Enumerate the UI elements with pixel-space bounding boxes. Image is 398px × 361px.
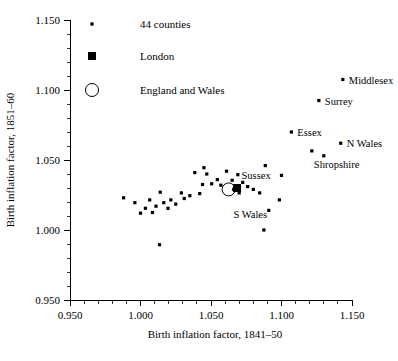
- data-point: [180, 191, 183, 194]
- point-label-sussex: Sussex: [242, 170, 272, 181]
- data-point-n-wales: [339, 142, 342, 145]
- data-point: [193, 171, 196, 174]
- legend-marker-filled-square: [88, 52, 96, 60]
- data-point: [258, 191, 261, 194]
- data-point-s-wales: [278, 198, 281, 201]
- point-label-s-wales: S Wales: [233, 209, 267, 220]
- scatter-plot-figure: 0.9501.0001.0501.1001.1500.9501.0001.050…: [0, 0, 398, 361]
- data-point-surrey: [317, 99, 320, 102]
- x-tick-label: 1.000: [128, 309, 153, 321]
- data-point: [162, 201, 165, 204]
- point-labels-group: MiddlesexSurreyEssexN WalesShropshireSus…: [233, 75, 394, 220]
- y-tick-label: 1.000: [35, 224, 60, 236]
- point-label-middlesex: Middlesex: [349, 75, 394, 86]
- data-point: [122, 196, 125, 199]
- data-point: [144, 207, 147, 210]
- y-tick-label: 1.100: [35, 84, 60, 96]
- data-point-sussex: [280, 174, 283, 177]
- data-point: [322, 154, 325, 157]
- point-label-n-wales: N Wales: [347, 138, 382, 149]
- data-point: [183, 197, 186, 200]
- data-point-essex: [290, 130, 293, 133]
- y-tick-label: 0.950: [35, 294, 60, 306]
- data-point: [267, 209, 270, 212]
- data-point: [188, 194, 191, 197]
- data-point: [252, 188, 255, 191]
- data-point: [158, 243, 161, 246]
- x-tick-label: 1.100: [269, 309, 294, 321]
- chart-svg: 0.9501.0001.0501.1001.1500.9501.0001.050…: [0, 0, 398, 361]
- data-point: [262, 228, 265, 231]
- data-point: [264, 164, 267, 167]
- data-point: [201, 183, 204, 186]
- y-tick-label: 1.150: [35, 14, 60, 26]
- legend-label: England and Wales: [140, 84, 224, 96]
- data-point: [154, 205, 157, 208]
- point-label-shropshire: Shropshire: [314, 159, 360, 170]
- x-axis-title: Birth inflation factor, 1841–50: [148, 328, 283, 340]
- x-tick-label: 1.150: [340, 309, 365, 321]
- data-point: [231, 179, 234, 182]
- chart-legend: 44 countiesLondonEngland and Wales: [86, 18, 225, 97]
- data-point: [216, 178, 219, 181]
- data-point: [202, 166, 205, 169]
- data-point-middlesex: [341, 78, 344, 81]
- legend-label: 44 counties: [140, 18, 190, 30]
- legend-marker-open-circle: [86, 84, 99, 97]
- legend-label: London: [140, 50, 175, 62]
- london-data-point: [233, 184, 241, 192]
- data-point: [169, 198, 172, 201]
- legend-marker-small-dot: [90, 22, 93, 25]
- data-point: [219, 184, 222, 187]
- data-point-shropshire: [310, 149, 313, 152]
- data-points-group: [122, 78, 344, 246]
- data-point: [205, 172, 208, 175]
- data-point: [148, 198, 151, 201]
- data-point: [198, 192, 201, 195]
- data-point: [139, 212, 142, 215]
- data-point: [133, 201, 136, 204]
- x-tick-label: 0.950: [58, 309, 83, 321]
- data-point: [246, 185, 249, 188]
- data-point: [236, 173, 239, 176]
- point-label-surrey: Surrey: [325, 96, 354, 107]
- x-tick-label: 1.050: [199, 309, 224, 321]
- point-label-essex: Essex: [297, 127, 322, 138]
- data-point: [225, 170, 228, 173]
- y-tick-label: 1.050: [35, 154, 60, 166]
- data-point: [174, 203, 177, 206]
- data-point: [210, 182, 213, 185]
- data-point: [151, 211, 154, 214]
- data-point: [166, 207, 169, 210]
- y-axis-title: Birth inflation factor, 1851–60: [4, 92, 16, 227]
- data-point: [159, 191, 162, 194]
